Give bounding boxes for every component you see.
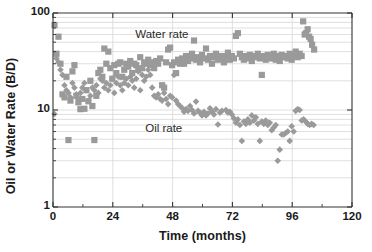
x-axis-title: Time (months) (53, 229, 352, 243)
series-2-markers (51, 55, 317, 164)
chart-figure: Oil or Water Rate (B/D) 110100 024487296… (0, 0, 372, 252)
x-tick-label: 120 (332, 210, 372, 222)
series-annotation: Water rate (135, 28, 188, 40)
x-tick-label: 0 (33, 210, 73, 222)
x-tick-label: 24 (93, 210, 133, 222)
x-tick-label: 48 (153, 210, 193, 222)
x-tick-label: 72 (212, 210, 252, 222)
x-tick-label: 96 (272, 210, 312, 222)
series-annotation: Oil rate (145, 122, 182, 134)
